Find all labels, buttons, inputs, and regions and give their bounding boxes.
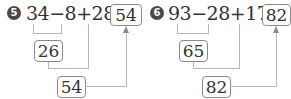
arrow-horizontal: [230, 86, 276, 87]
arrow-up-icon: [123, 26, 129, 33]
step2-result-box[interactable]: 54: [57, 76, 86, 98]
answer-box[interactable]: 54: [110, 4, 142, 26]
arrow-horizontal: [85, 86, 127, 87]
arrow-up-icon: [273, 26, 279, 33]
arrow-vertical: [276, 30, 277, 87]
bracket-bottom: [33, 33, 62, 34]
step1-result-box[interactable]: 26: [34, 40, 63, 62]
problem-number-badge: 5: [7, 6, 21, 20]
arrow-vertical: [126, 30, 127, 87]
connector-horizontal: [193, 68, 240, 69]
connector-vertical-28: [88, 24, 89, 68]
connector-horizontal: [48, 68, 89, 69]
problem-5: 5 34−8+28= 54 26 54: [0, 0, 145, 99]
step1-result-box[interactable]: 65: [179, 40, 208, 62]
problem-number-badge: 6: [150, 6, 164, 20]
step2-result-box[interactable]: 82: [202, 76, 231, 98]
connector-vertical-17: [239, 24, 240, 68]
answer-box[interactable]: 82: [262, 4, 291, 26]
bracket-bottom: [177, 33, 209, 34]
problem-6: 6 93−28+17= 82 65 82: [145, 0, 290, 99]
